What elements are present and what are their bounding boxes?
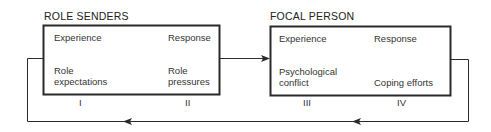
role-expectations-line1: Role <box>54 65 74 76</box>
role-pressures-line1: Role <box>168 65 188 76</box>
psychological-conflict-line2: conflict <box>279 77 309 88</box>
focal-person-experience-label: Experience <box>279 33 327 44</box>
role-expectations-line2: expectations <box>54 76 107 87</box>
numeral-ii: II <box>185 97 190 108</box>
coping-efforts-label: Coping efforts <box>374 77 433 88</box>
role-senders-title: ROLE SENDERS <box>44 10 129 22</box>
psychological-conflict-line1: Psychological <box>279 66 337 77</box>
focal-person-response-label: Response <box>374 33 417 44</box>
focal-person-title: FOCAL PERSON <box>270 10 354 22</box>
role-pressures-line2: pressures <box>168 76 210 87</box>
numeral-i: I <box>79 97 82 108</box>
numeral-iii: III <box>303 97 311 108</box>
numeral-iv: IV <box>397 97 406 108</box>
role-senders-experience-label: Experience <box>54 32 102 43</box>
feedback-loop <box>28 59 469 122</box>
role-senders-response-label: Response <box>168 32 211 43</box>
